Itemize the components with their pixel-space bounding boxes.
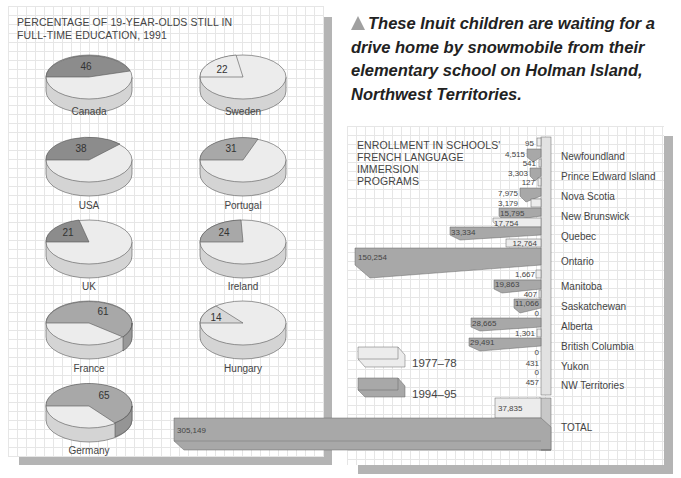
province-label: Alberta <box>561 321 593 332</box>
legend-swatch-1994 <box>358 378 405 397</box>
svg-text:15,795: 15,795 <box>500 209 525 218</box>
province-label: Manitoba <box>561 281 602 292</box>
legend-label-1994: 1994–95 <box>412 388 457 400</box>
svg-text:95: 95 <box>525 139 534 148</box>
total-label: TOTAL <box>561 422 592 433</box>
province-label: Newfoundland <box>561 151 625 162</box>
svg-text:11,066: 11,066 <box>515 299 539 308</box>
province-label: Nova Scotia <box>561 191 615 202</box>
svg-text:4,515: 4,515 <box>505 150 526 159</box>
legend-swatch-1977 <box>358 347 405 367</box>
province-label: Ontario <box>561 256 594 267</box>
svg-text:29,491: 29,491 <box>470 338 495 347</box>
svg-text:3,303: 3,303 <box>508 169 529 178</box>
svg-text:0: 0 <box>535 348 540 357</box>
legend-label-1977: 1977–78 <box>412 357 457 369</box>
svg-text:12,764: 12,764 <box>513 239 538 248</box>
svg-text:17,754: 17,754 <box>494 219 519 228</box>
svg-text:127: 127 <box>522 178 536 187</box>
svg-text:33,334: 33,334 <box>451 228 476 237</box>
svg-text:541: 541 <box>523 159 537 168</box>
province-label: Prince Edward Island <box>561 171 656 182</box>
svg-text:3,179: 3,179 <box>498 199 519 208</box>
province-label: British Columbia <box>561 341 634 352</box>
svg-text:1,667: 1,667 <box>515 270 536 279</box>
province-label: NW Territories <box>561 380 624 391</box>
axis-strip <box>541 137 551 395</box>
svg-text:431: 431 <box>526 359 540 368</box>
province-label: Quebec <box>561 231 596 242</box>
province-label: Saskatchewan <box>561 301 626 312</box>
svg-text:7,975: 7,975 <box>498 189 519 198</box>
svg-text:0: 0 <box>535 309 540 318</box>
svg-text:0: 0 <box>535 368 540 377</box>
province-label: New Brunswick <box>561 211 629 222</box>
svg-text:1,301: 1,301 <box>515 329 536 338</box>
svg-text:457: 457 <box>526 378 540 387</box>
svg-text:305,149: 305,149 <box>177 426 206 435</box>
svg-text:37,835: 37,835 <box>498 404 523 413</box>
province-label: Yukon <box>561 361 589 372</box>
svg-text:407: 407 <box>524 290 538 299</box>
svg-text:19,863: 19,863 <box>495 280 520 289</box>
svg-text:150,254: 150,254 <box>358 253 387 262</box>
svg-text:28,665: 28,665 <box>472 319 497 328</box>
